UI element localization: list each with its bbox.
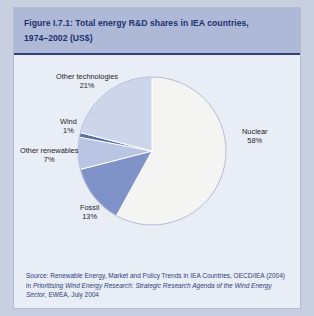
figure-source-text: Source: Renewable Energy, Market and Pol… [26,271,288,300]
pie-label-fossil: Fossil 13% [80,203,99,222]
figure-title-line-1: Figure I.7.1: Total energy R&D shares in… [24,16,290,31]
pie-label-nuclear-value: 58% [242,136,267,145]
chart-area: Other technologies 21% Wind 1% Other ren… [14,55,300,261]
figure-title-band: Figure I.7.1: Total energy R&D shares in… [14,8,300,55]
figure-source-suffix: , EWEA, July 2004 [45,291,99,298]
pie-label-other-technologies-name: Other technologies [56,72,118,81]
pie-label-wind-value: 1% [60,126,77,135]
pie-label-wind-name: Wind [60,117,77,126]
pie-label-fossil-name: Fossil [80,203,99,212]
figure-title-line-2: 1974–2002 (US$) [24,31,290,46]
figure-panel: Figure I.7.1: Total energy R&D shares in… [14,8,300,308]
figure-source: Source: Renewable Energy, Market and Pol… [14,265,300,308]
pie-label-other-renewables: Other renewables 7% [20,146,78,165]
pie-label-wind: Wind 1% [60,117,77,136]
pie-label-fossil-value: 13% [80,212,99,221]
pie-label-nuclear: Nuclear 58% [242,127,267,146]
pie-label-other-renewables-name: Other renewables [20,146,78,155]
pie-label-nuclear-name: Nuclear [242,127,267,136]
pie-label-other-technologies: Other technologies 21% [56,72,118,91]
pie-label-other-technologies-value: 21% [56,81,118,90]
pie-label-other-renewables-value: 7% [20,155,78,164]
pie-slices [78,77,226,225]
